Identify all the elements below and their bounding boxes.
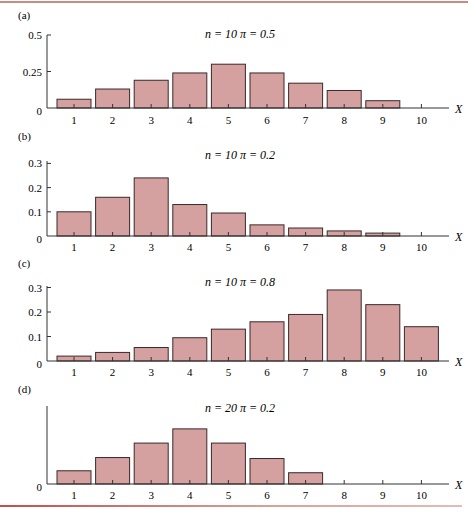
- x-axis-label: X: [454, 478, 463, 492]
- x-tick-label: 5: [226, 114, 232, 126]
- chart-panel-b: (b)n = 10 π = 0.200.10.20.312345678910X: [18, 130, 463, 253]
- y-tick-label: 0.5: [28, 29, 42, 41]
- binomial-charts: (a)n = 10 π = 0.500.250.512345678910X(b)…: [0, 0, 468, 516]
- x-tick-label: 9: [380, 366, 386, 378]
- x-tick-label: 1: [71, 366, 77, 378]
- chart-title: n = 10 π = 0.5: [205, 27, 275, 41]
- x-axis-label: X: [454, 230, 463, 244]
- y-tick-label: 0.3: [28, 157, 42, 169]
- bar-x-7: [289, 314, 323, 361]
- x-tick-label: 9: [380, 114, 386, 126]
- x-tick-label: 6: [264, 489, 270, 501]
- chart-panel-d: (d)n = 20 π = 0.2012345678910X: [18, 383, 463, 501]
- x-tick-label: 8: [341, 489, 347, 501]
- x-tick-label: 1: [71, 489, 77, 501]
- bar-x-5: [211, 329, 245, 361]
- bar-x-9: [366, 305, 400, 361]
- y-tick-label: 0.2: [28, 306, 42, 318]
- panel-label: (a): [18, 9, 31, 22]
- x-tick-label: 7: [303, 366, 309, 378]
- bar-x-10: [404, 327, 438, 361]
- y-tick-label: 0: [37, 233, 43, 245]
- x-tick-label: 8: [341, 241, 347, 253]
- x-tick-label: 2: [110, 366, 116, 378]
- chart-title: n = 10 π = 0.8: [205, 275, 275, 289]
- x-tick-label: 3: [148, 489, 154, 501]
- y-tick-label: 0.25: [23, 66, 43, 78]
- bar-x-6: [250, 322, 284, 361]
- x-tick-label: 3: [148, 241, 154, 253]
- x-tick-label: 4: [187, 114, 193, 126]
- y-tick-label: 0.2: [28, 182, 42, 194]
- x-tick-label: 4: [187, 241, 193, 253]
- x-tick-label: 6: [264, 366, 270, 378]
- x-tick-label: 7: [303, 489, 309, 501]
- chart-panel-c: (c)n = 10 π = 0.800.10.20.312345678910X: [18, 257, 463, 378]
- x-tick-label: 4: [187, 489, 193, 501]
- x-tick-label: 2: [110, 241, 116, 253]
- bar-x-6: [250, 73, 284, 108]
- x-tick-label: 8: [341, 366, 347, 378]
- chart-panel-a: (a)n = 10 π = 0.500.250.512345678910X: [18, 9, 463, 126]
- x-tick-label: 9: [380, 241, 386, 253]
- x-tick-label: 6: [264, 241, 270, 253]
- bar-x-5: [211, 443, 245, 484]
- x-axis-label: X: [454, 355, 463, 369]
- x-tick-label: 2: [110, 489, 116, 501]
- panel-label: (c): [18, 257, 31, 270]
- x-tick-label: 8: [341, 114, 347, 126]
- y-tick-label: 0.1: [28, 206, 42, 218]
- x-tick-label: 2: [110, 114, 116, 126]
- chart-title: n = 10 π = 0.2: [205, 148, 275, 162]
- x-tick-label: 1: [71, 241, 77, 253]
- x-tick-label: 5: [226, 489, 232, 501]
- y-tick-label: 0: [37, 105, 43, 117]
- x-tick-label: 10: [416, 241, 428, 253]
- bar-x-2: [96, 197, 130, 236]
- bar-x-3: [134, 443, 168, 484]
- x-tick-label: 10: [416, 489, 428, 501]
- panel-label: (d): [18, 383, 31, 396]
- y-tick-label: 0: [37, 358, 43, 370]
- x-axis-label: X: [454, 102, 463, 116]
- x-tick-label: 3: [148, 114, 154, 126]
- x-tick-label: 1: [71, 114, 77, 126]
- y-tick-label: 0: [37, 481, 43, 493]
- bar-x-4: [173, 73, 207, 108]
- chart-title: n = 20 π = 0.2: [205, 401, 275, 415]
- x-tick-label: 6: [264, 114, 270, 126]
- x-tick-label: 5: [226, 366, 232, 378]
- x-tick-label: 3: [148, 366, 154, 378]
- bar-x-3: [134, 80, 168, 108]
- x-tick-label: 10: [416, 366, 428, 378]
- x-tick-label: 5: [226, 241, 232, 253]
- x-tick-label: 10: [416, 114, 428, 126]
- bar-x-5: [211, 64, 245, 108]
- bottom-rule: [0, 505, 462, 507]
- bar-x-4: [173, 429, 207, 484]
- y-tick-label: 0.3: [28, 282, 42, 294]
- bar-x-8: [327, 290, 361, 361]
- y-tick-label: 0.1: [28, 331, 42, 343]
- bar-x-4: [173, 205, 207, 236]
- x-tick-label: 9: [380, 489, 386, 501]
- x-tick-label: 7: [303, 241, 309, 253]
- panel-label: (b): [18, 130, 31, 143]
- x-tick-label: 7: [303, 114, 309, 126]
- x-tick-label: 4: [187, 366, 193, 378]
- bar-x-3: [134, 178, 168, 236]
